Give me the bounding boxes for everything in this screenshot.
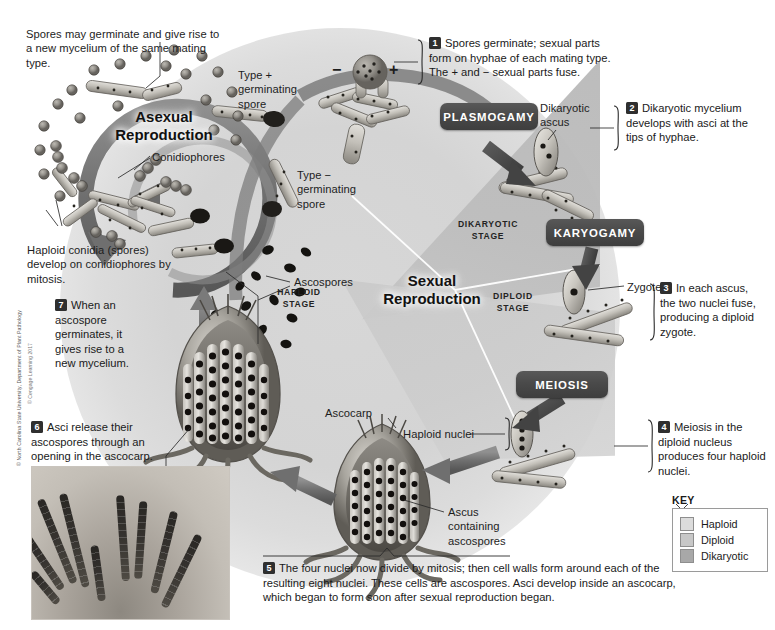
- asexual-reproduction-title: Asexual Reproduction: [84, 108, 244, 144]
- stage-label-dikaryotic: DIKARYOTIC STAGE: [438, 218, 538, 242]
- callout-step-3: 3In each ascus, the two nuclei fuse, pro…: [660, 281, 764, 339]
- step-1-text: Spores germinate; sexual parts form on h…: [429, 37, 611, 78]
- stage-label-diploid: DIPLOID STAGE: [468, 290, 558, 314]
- dikaryotic-ascus-line2: ascus: [540, 115, 620, 129]
- step-2-text: Dikaryotic mycelium develops with asci a…: [626, 102, 748, 143]
- annotation-ascospores: Ascospores: [294, 275, 384, 289]
- key-swatch-diploid: [680, 533, 694, 547]
- annotation-type-plus-spore: Type + germinating spore: [238, 68, 334, 111]
- step-1-number: 1: [429, 37, 441, 49]
- step-6-text: Asci release their ascospores through an…: [31, 421, 153, 462]
- key-item-haploid: Haploid: [680, 517, 761, 531]
- key-item-dikaryotic: Dikaryotic: [680, 549, 761, 563]
- type-minus-line1: Type −: [297, 168, 393, 182]
- type-minus-line3: spore: [297, 197, 393, 211]
- process-box-plasmogamy: PLASMOGAMY: [440, 103, 538, 130]
- micrograph-photo: [31, 466, 230, 620]
- key-title: KEY: [672, 494, 695, 506]
- figure-canvas: PLASMOGAMY KARYOGAMY MEIOSIS Asexual Rep…: [0, 0, 775, 630]
- ascus-cont-line1: Ascus: [448, 505, 538, 519]
- annotation-haploid-nuclei: Haploid nuclei: [394, 427, 474, 441]
- process-box-meiosis-label: MEIOSIS: [535, 379, 588, 391]
- stage-label-haploid: HAPLOID STAGE: [254, 286, 344, 310]
- step-2-number: 2: [626, 102, 638, 114]
- ascus-cont-line3: ascospores: [448, 534, 538, 548]
- step-3-number: 3: [660, 282, 672, 294]
- key-swatch-dikaryotic: [680, 549, 694, 563]
- type-plus-line1: Type +: [238, 68, 334, 82]
- key-label-haploid: Haploid: [701, 518, 738, 530]
- diploid-stage-line2: STAGE: [468, 302, 558, 314]
- process-box-meiosis: MEIOSIS: [516, 371, 608, 398]
- diploid-stage-line1: DIPLOID: [468, 290, 558, 302]
- type-plus-line3: spore: [238, 97, 334, 111]
- callout-step-5: 5The four nuclei now divide by mitosis; …: [263, 561, 683, 605]
- annotation-ascocarp: Ascocarp: [325, 406, 395, 420]
- process-box-plasmogamy-label: PLASMOGAMY: [443, 111, 534, 123]
- step-7-number: 7: [55, 299, 67, 311]
- type-plus-line2: germinating: [238, 82, 334, 96]
- step-4-number: 4: [658, 421, 670, 433]
- callout-step-7: 7When an ascospore germinates, it gives …: [55, 298, 147, 371]
- dikaryotic-stage-line1: DIKARYOTIC: [438, 218, 538, 230]
- step-5-text: The four nuclei now divide by mitosis; t…: [263, 562, 676, 603]
- process-box-karyogamy: KARYOGAMY: [546, 219, 644, 246]
- annotation-haploid-conidia: Haploid conidia (spores) develop on coni…: [27, 243, 187, 286]
- annotation-dikaryotic-ascus: Dikaryotic ascus: [540, 101, 620, 130]
- annotation-type-minus-spore: Type − germinating spore: [297, 168, 393, 211]
- plus-sign-label: +: [389, 63, 398, 77]
- photo-credit-text: © North Carolina State University, Depar…: [16, 316, 22, 466]
- key-swatch-haploid: [680, 517, 694, 531]
- haploid-stage-line2: STAGE: [254, 298, 344, 310]
- process-box-karyogamy-label: KARYOGAMY: [554, 227, 637, 239]
- annotation-conidiophores: Conidiophores: [152, 150, 262, 164]
- callout-step-4: 4Meiosis in the diploid nucleus produces…: [658, 420, 768, 478]
- callout-step-2: 2Dikaryotic mycelium develops with asci …: [626, 101, 768, 145]
- step-4-text: Meiosis in the diploid nucleus produces …: [658, 421, 766, 477]
- ascus-cont-line2: containing: [448, 519, 538, 533]
- key-box: Haploid Diploid Dikaryotic: [672, 508, 768, 572]
- dikaryotic-stage-line2: STAGE: [438, 230, 538, 242]
- type-minus-line2: germinating: [297, 182, 393, 196]
- figure-credit-text: © Cengage Learning 2017: [27, 343, 33, 404]
- key-item-diploid: Diploid: [680, 533, 761, 547]
- key-label-diploid: Diploid: [701, 534, 734, 546]
- step-3-text: In each ascus, the two nuclei fuse, prod…: [660, 282, 756, 338]
- asexual-title-line2: Reproduction: [84, 126, 244, 144]
- key-label-dikaryotic: Dikaryotic: [701, 550, 748, 562]
- annotation-spores-germinate-note: Spores may germinate and give rise to a …: [26, 27, 226, 70]
- step-6-number: 6: [31, 421, 43, 433]
- annotation-ascus-containing-ascospores: Ascus containing ascospores: [448, 505, 538, 548]
- dikaryotic-ascus-line1: Dikaryotic: [540, 101, 620, 115]
- callout-step-6: 6Asci release their ascospores through a…: [31, 420, 176, 464]
- asexual-title-line1: Asexual: [84, 108, 244, 126]
- step-5-number: 5: [263, 562, 275, 574]
- callout-step-1: 1Spores germinate; sexual parts form on …: [429, 36, 614, 80]
